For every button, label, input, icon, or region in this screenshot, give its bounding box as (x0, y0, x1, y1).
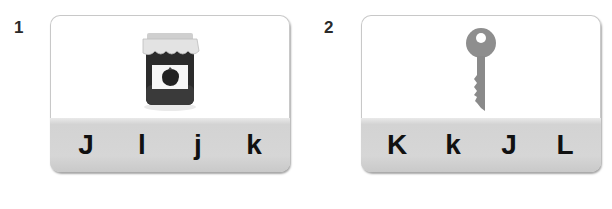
option-2[interactable]: l (122, 129, 162, 161)
option-3[interactable]: j (178, 129, 218, 161)
answer-options: J l j k (50, 118, 290, 172)
question-card-2: K k J L (361, 15, 601, 172)
question-number: 2 (324, 18, 333, 38)
answer-options: K k J L (361, 118, 601, 172)
picture-area (50, 15, 290, 118)
jam-jar-icon (135, 15, 205, 115)
option-1[interactable]: K (377, 129, 417, 161)
question-number: 1 (14, 18, 23, 38)
key-icon (456, 23, 506, 123)
option-4[interactable]: k (234, 129, 274, 161)
option-4[interactable]: L (545, 129, 585, 161)
picture-area (361, 15, 601, 118)
question-card-1: J l j k (50, 15, 290, 172)
option-2[interactable]: k (433, 129, 473, 161)
option-3[interactable]: J (489, 129, 529, 161)
option-1[interactable]: J (66, 129, 106, 161)
